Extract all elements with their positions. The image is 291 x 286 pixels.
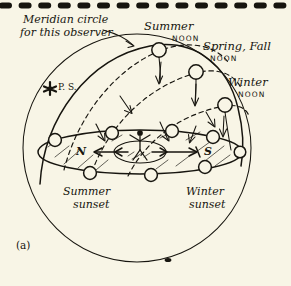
ink-blot (165, 258, 172, 262)
summer-noon-label: NOON (172, 35, 199, 43)
spring-fall-noon-label: NOON (210, 55, 237, 63)
marker-south-lower (199, 161, 212, 174)
meridian-label-line1: Meridian circle (23, 14, 108, 26)
marker-back-far-right (207, 131, 220, 144)
summer-sunset-label-line1: Summer (63, 186, 110, 198)
pole-star-label: P. S. (58, 82, 77, 92)
marker-winter-noon (218, 98, 232, 112)
marker-spring-fall-noon (189, 65, 203, 79)
observer-group (114, 131, 166, 163)
winter-label: Winter (228, 76, 268, 89)
marker-east-point (234, 146, 246, 158)
sphere-outline (23, 34, 251, 262)
marker-summer-noon (152, 43, 166, 57)
winter-noon-label: NOON (238, 91, 265, 99)
marker-back-mid (106, 127, 119, 140)
summer-sunset-label-line2: sunset (73, 199, 109, 211)
meridian-label-line2: for this observer (20, 27, 113, 39)
marker-back-right (166, 125, 179, 138)
winter-sunset-label-line1: Winter (186, 186, 224, 198)
pole-star-icon (44, 82, 56, 95)
marker-winter-sunset (145, 169, 158, 182)
solar-path-spring-fall (92, 71, 241, 172)
observer-stick-figure (130, 131, 150, 160)
south-label: S (204, 145, 212, 158)
solar-path-winter (128, 105, 249, 176)
marker-summer-sunset (84, 167, 97, 180)
marker-back-left (49, 134, 62, 147)
spring-fall-label: Spring, Fall (203, 40, 271, 53)
figure-page: .ink { fill:none; stroke:#17150f; stroke… (0, 0, 291, 286)
winter-sunset-label-line2: sunset (189, 199, 225, 211)
north-label: N (76, 145, 86, 158)
summer-label: Summer (144, 20, 193, 33)
figure-caption: (a) (16, 239, 30, 251)
